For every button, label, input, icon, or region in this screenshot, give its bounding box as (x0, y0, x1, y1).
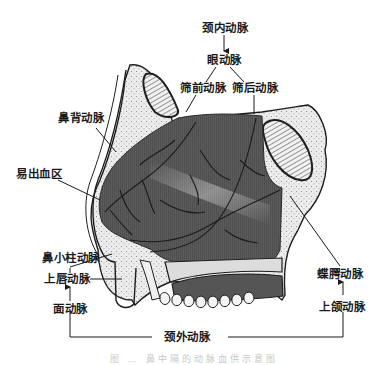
label-anterior-ethmoidal: 筛前动脉 (180, 82, 226, 95)
label-maxillary: 上颌动脉 (319, 301, 365, 314)
label-dorsal-nasal: 鼻背动脉 (58, 112, 104, 125)
label-external-carotid: 颈外动脉 (164, 331, 210, 344)
label-bleeding-area: 易出血区 (16, 168, 62, 181)
figure-caption: 图 … 鼻中隔的动脉血供示意图 (110, 352, 278, 365)
label-posterior-ethmoidal: 筛后动脉 (232, 82, 278, 95)
label-sphenopalatine: 蝶腭动脉 (317, 268, 363, 281)
label-superior-labial: 上唇动脉 (44, 273, 90, 286)
label-columellar: 鼻小柱动脉 (42, 252, 100, 265)
label-internal-carotid: 颈内动脉 (202, 22, 248, 35)
label-ophthalmic: 眼动脉 (207, 54, 242, 67)
label-facial: 面动脉 (53, 303, 88, 316)
